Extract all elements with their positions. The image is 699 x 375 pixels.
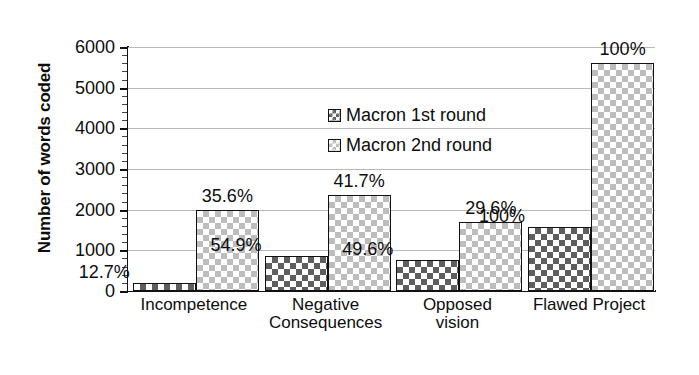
data-label: 49.6% [342, 240, 393, 258]
x-axis-category-label: NegativeConsequences [260, 296, 392, 333]
legend-swatch-icon [328, 139, 341, 152]
bar-chart-figure: Number of words coded 010002000300040005… [0, 0, 699, 375]
category-label-line: Consequences [260, 314, 392, 332]
bar [133, 283, 196, 291]
gridline [128, 169, 655, 170]
category-label-line: Opposed [392, 296, 524, 314]
y-axis-tick-label: 1000 [55, 241, 115, 259]
legend-item: Macron 1st round [328, 102, 492, 128]
category-label-line: vision [392, 314, 524, 332]
category-label-line: Incompetence [128, 296, 260, 314]
y-axis-tick-label: 0 [55, 282, 115, 300]
data-label: 35.6% [202, 187, 253, 205]
y-axis-tick-label: 3000 [55, 160, 115, 178]
y-axis-tick-label: 5000 [55, 79, 115, 97]
bar [528, 227, 591, 291]
gridline [128, 47, 655, 48]
category-label-line: Negative [260, 296, 392, 314]
data-label: 41.7% [334, 172, 385, 190]
bar [265, 256, 328, 291]
legend: Macron 1st roundMacron 2nd round [328, 102, 492, 162]
data-label: 54.9% [211, 236, 262, 254]
bar [591, 63, 654, 291]
bar [396, 260, 459, 291]
y-axis-tick-label: 2000 [55, 201, 115, 219]
legend-label: Macron 2nd round [346, 135, 492, 156]
plot-area: 12.7%35.6%54.9%41.7%49.6%29.6%100%100% M… [128, 47, 655, 291]
y-axis-tick-label: 4000 [55, 119, 115, 137]
data-label: 100% [479, 207, 525, 225]
data-label: 100% [600, 40, 646, 58]
x-axis-category-label: Opposedvision [392, 296, 524, 333]
y-axis-title: Number of words coded [35, 33, 55, 283]
category-label-line: Flawed Project [523, 296, 655, 314]
y-axis-tick-label: 6000 [55, 38, 115, 56]
x-axis-category-label: Incompetence [128, 296, 260, 314]
legend-swatch-icon [328, 109, 341, 122]
x-axis-category-label: Flawed Project [523, 296, 655, 314]
legend-label: Macron 1st round [346, 105, 486, 126]
data-label: 12.7% [79, 263, 130, 281]
bar [459, 222, 522, 291]
gridline [128, 88, 655, 89]
legend-item: Macron 2nd round [328, 132, 492, 158]
